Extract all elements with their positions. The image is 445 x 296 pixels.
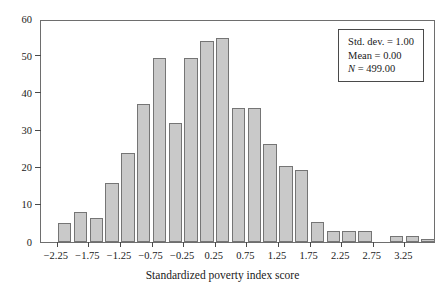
y-axis-tick	[35, 55, 41, 56]
x-axis-tick	[215, 242, 216, 247]
y-axis-tick-label: 30	[0, 126, 32, 137]
y-axis-tick-label: 40	[0, 89, 32, 100]
legend-n-value: = 499.00	[355, 63, 395, 74]
x-axis-tick	[120, 242, 121, 247]
histogram-bar	[105, 183, 119, 242]
y-axis-tick-label: 20	[0, 163, 32, 174]
legend-n: N = 499.00	[348, 62, 414, 76]
legend-mean: Mean = 0.00	[348, 49, 414, 63]
x-axis-tick	[373, 242, 374, 247]
histogram-bar	[421, 239, 435, 242]
histogram-bar	[342, 231, 356, 242]
histogram-bar	[232, 108, 246, 242]
legend-std-dev: Std. dev. = 1.00	[348, 35, 414, 49]
histogram-bar	[216, 38, 230, 242]
histogram-bar	[90, 218, 104, 242]
x-axis-tick	[88, 242, 89, 247]
histogram-bar	[279, 166, 293, 242]
histogram-figure: Std. dev. = 1.00 Mean = 0.00 N = 499.00 …	[0, 0, 445, 296]
histogram-bar	[200, 41, 214, 242]
plot-area: Std. dev. = 1.00 Mean = 0.00 N = 499.00	[40, 20, 435, 243]
x-axis-title: Standardized poverty index score	[0, 269, 445, 281]
x-axis-tick	[310, 242, 311, 247]
y-axis-tick-label: 50	[0, 52, 32, 63]
histogram-bar	[184, 58, 198, 242]
histogram-bar	[137, 104, 151, 242]
histogram-bar	[263, 144, 277, 242]
histogram-bar	[121, 153, 135, 242]
x-axis-tick	[183, 242, 184, 247]
x-axis-tick	[246, 242, 247, 247]
histogram-bar	[248, 108, 262, 242]
x-axis-tick	[152, 242, 153, 247]
histogram-bar	[406, 236, 420, 242]
histogram-bar	[295, 170, 309, 242]
y-axis-tick	[35, 167, 41, 168]
y-axis-tick-label: 10	[0, 200, 32, 211]
x-axis-tick	[57, 242, 58, 247]
histogram-bar	[390, 236, 404, 242]
histogram-bar	[311, 222, 325, 242]
y-axis-tick	[35, 204, 41, 205]
y-axis-tick	[35, 92, 41, 93]
y-axis-tick-label: 0	[0, 238, 32, 249]
x-axis-tick	[404, 242, 405, 247]
x-axis-tick-label: 3.25	[381, 250, 425, 261]
x-axis-tick	[278, 242, 279, 247]
x-axis-tick	[341, 242, 342, 247]
histogram-bar	[153, 58, 167, 242]
histogram-bar	[169, 123, 183, 242]
y-axis-tick	[35, 130, 41, 131]
histogram-bar	[74, 212, 88, 242]
statistics-legend-box: Std. dev. = 1.00 Mean = 0.00 N = 499.00	[338, 29, 424, 82]
histogram-bar	[358, 231, 372, 242]
y-axis-tick-label: 60	[0, 15, 32, 26]
histogram-bar	[58, 223, 72, 242]
histogram-bar	[327, 231, 341, 242]
